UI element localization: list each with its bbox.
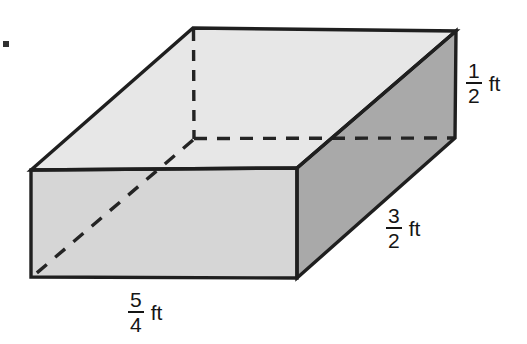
depth-numerator: 3 xyxy=(386,205,402,227)
rectangular-prism-figure: 1 2 ft 3 2 ft 5 4 ft xyxy=(0,0,527,344)
prism-drawing xyxy=(0,0,527,344)
height-label: 1 2 ft xyxy=(466,60,500,106)
width-unit: ft xyxy=(151,302,163,323)
width-numerator: 5 xyxy=(128,289,144,311)
depth-fraction: 3 2 xyxy=(386,205,402,251)
height-denominator: 2 xyxy=(466,84,482,106)
width-fraction: 5 4 xyxy=(128,289,144,335)
depth-label: 3 2 ft xyxy=(386,205,420,251)
height-unit: ft xyxy=(489,73,501,94)
height-numerator: 1 xyxy=(466,60,482,82)
width-denominator: 4 xyxy=(128,313,144,335)
depth-denominator: 2 xyxy=(386,229,402,251)
front-face xyxy=(31,168,297,278)
depth-unit: ft xyxy=(409,218,421,239)
width-label: 5 4 ft xyxy=(128,289,162,335)
height-fraction: 1 2 xyxy=(466,60,482,106)
